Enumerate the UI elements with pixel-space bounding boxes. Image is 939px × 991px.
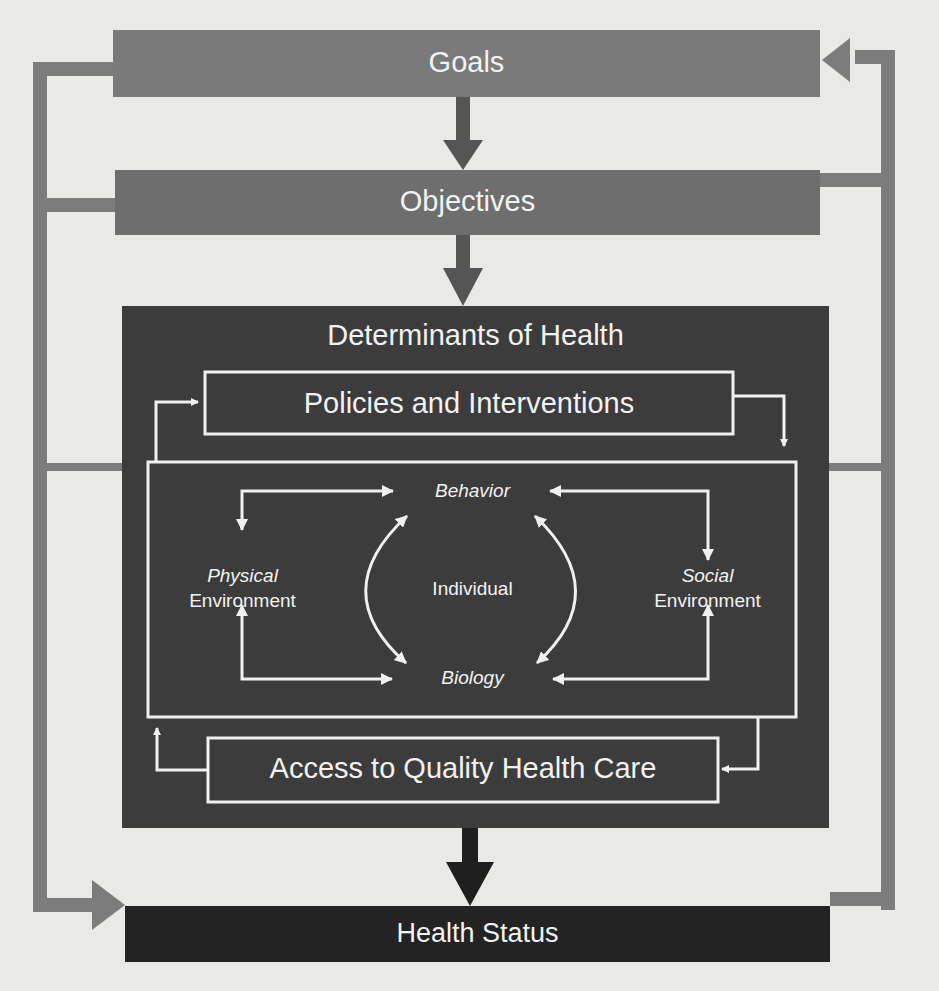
down-arrow-icon: [443, 140, 483, 170]
physical-environment-label: Environment: [160, 590, 325, 612]
down-arrow-icon: [443, 268, 483, 306]
goals-label: Goals: [113, 46, 820, 79]
individual-label: Individual: [400, 578, 545, 600]
determinants-title: Determinants of Health: [122, 319, 829, 352]
health-status-label: Health Status: [125, 918, 830, 949]
policies-label: Policies and Interventions: [205, 387, 733, 420]
health-framework-diagram: Goals Objectives Determinants of Health …: [0, 0, 939, 991]
physical-label: Physical: [160, 565, 325, 587]
arrow-into-goals-icon: [822, 38, 850, 82]
biology-label: Biology: [400, 667, 545, 689]
social-label: Social: [625, 565, 790, 587]
objectives-label: Objectives: [115, 185, 820, 218]
down-arrow-icon: [446, 862, 494, 906]
behavior-label: Behavior: [400, 480, 545, 502]
left-feedback-line: [33, 62, 47, 912]
arrow-into-health-status-icon: [92, 880, 125, 930]
access-label: Access to Quality Health Care: [208, 752, 718, 785]
social-environment-label: Environment: [625, 590, 790, 612]
